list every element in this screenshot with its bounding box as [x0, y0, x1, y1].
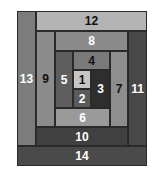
patch-3: 3 — [91, 70, 110, 108]
patch-13: 13 — [17, 11, 36, 146]
patch-label: 11 — [131, 82, 144, 96]
patch-label: 5 — [61, 73, 68, 87]
patch-label: 2 — [79, 92, 86, 106]
patch-4: 4 — [73, 51, 110, 70]
patch-9: 9 — [36, 31, 55, 127]
patch-2: 2 — [73, 89, 91, 108]
patch-label: 10 — [75, 130, 88, 144]
patch-8: 8 — [55, 31, 128, 51]
patch-label: 8 — [88, 34, 95, 48]
patch-label: 6 — [79, 111, 86, 125]
patch-11: 11 — [128, 31, 147, 146]
patch-10: 10 — [36, 127, 128, 146]
patch-label: 13 — [20, 72, 33, 86]
patch-6: 6 — [55, 108, 110, 127]
patch-7: 7 — [110, 51, 128, 127]
patch-label: 3 — [97, 82, 104, 96]
patch-label: 1 — [79, 73, 86, 87]
patch-label: 4 — [88, 54, 95, 68]
patch-label: 7 — [116, 82, 123, 96]
patch-label: 14 — [75, 149, 88, 163]
patch-1: 1 — [73, 70, 91, 89]
patch-12: 12 — [36, 11, 147, 31]
patch-5: 5 — [55, 51, 73, 108]
patch-14: 14 — [17, 146, 147, 166]
patch-label: 9 — [42, 72, 49, 86]
patch-label: 12 — [85, 14, 98, 28]
